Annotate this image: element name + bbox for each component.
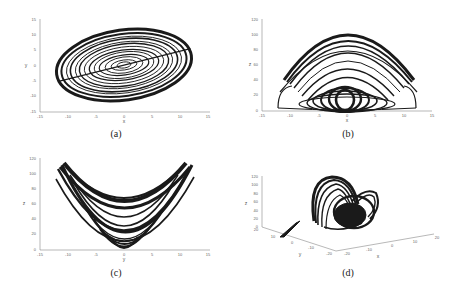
svg-text:15: 15: [430, 113, 435, 118]
caption-b: (b): [232, 128, 464, 139]
y-ticks-c: 120 100 80 60 40 20 0: [29, 156, 36, 252]
svg-text:-5: -5: [317, 113, 321, 118]
caption-c: (c): [0, 267, 232, 278]
svg-text:5: 5: [34, 47, 37, 52]
svg-text:-5: -5: [32, 78, 36, 83]
svg-text:10: 10: [402, 113, 407, 118]
svg-text:-15: -15: [37, 114, 44, 119]
svg-text:40: 40: [254, 208, 259, 213]
svg-text:120: 120: [251, 174, 258, 179]
svg-text:20: 20: [435, 235, 440, 240]
svg-text:60: 60: [32, 201, 37, 206]
svg-text:-5: -5: [94, 252, 98, 257]
svg-text:-20: -20: [326, 251, 333, 256]
svg-text:80: 80: [254, 47, 259, 52]
svg-text:100: 100: [251, 32, 258, 37]
y-ticks-a: 15 10 5 0 -5 -10 -15: [30, 17, 37, 114]
svg-text:40: 40: [254, 77, 259, 82]
x-axis-label-a: x: [123, 118, 126, 124]
plot-area-b: 120 100 80 60 40 20 0 -15 -10 -5 0 5 10 …: [232, 0, 464, 149]
svg-text:0: 0: [391, 243, 394, 248]
svg-text:120: 120: [29, 156, 36, 161]
caption-a: (a): [0, 128, 232, 139]
svg-text:-10: -10: [366, 247, 373, 252]
trace-a: [52, 21, 196, 109]
x-axis-label-d: x: [377, 253, 380, 259]
svg-text:-15: -15: [37, 252, 44, 257]
svg-text:5: 5: [151, 252, 154, 257]
svg-text:20: 20: [32, 231, 37, 236]
plot-area-a: 15 10 5 0 -5 -10 -15 -15 -10 -5 0 5 10 1…: [0, 0, 232, 149]
svg-text:-10: -10: [65, 114, 72, 119]
svg-text:-15: -15: [30, 109, 37, 114]
svg-text:-10: -10: [30, 93, 37, 98]
x-axis-label-b: x: [346, 117, 349, 123]
svg-text:40: 40: [32, 216, 37, 221]
svg-text:60: 60: [254, 199, 259, 204]
svg-text:5: 5: [374, 113, 377, 118]
trace-d: [280, 177, 378, 237]
svg-text:15: 15: [206, 252, 211, 257]
svg-text:10: 10: [178, 252, 183, 257]
svg-text:15: 15: [32, 17, 37, 22]
svg-text:20: 20: [254, 227, 259, 232]
x-ticks-d: -20 -10 0 10 20: [344, 235, 440, 256]
y-ticks-b: 120 100 80 60 40 20 0: [251, 17, 258, 113]
svg-text:-5: -5: [94, 114, 98, 119]
svg-text:-20: -20: [344, 251, 351, 256]
svg-text:-10: -10: [308, 245, 315, 250]
svg-text:0: 0: [291, 240, 294, 245]
z-axis-label-d: z: [245, 200, 248, 206]
svg-text:20: 20: [254, 92, 259, 97]
svg-text:80: 80: [254, 191, 259, 196]
y-axis-label-d: y: [299, 251, 302, 257]
subplot-d: 120 100 80 60 40 20 0 20 10 0 -10 -20 -2…: [232, 149, 464, 298]
svg-text:10: 10: [32, 32, 37, 37]
subplot-b: 120 100 80 60 40 20 0 -15 -10 -5 0 5 10 …: [232, 0, 464, 149]
y-axis-label-a: y: [25, 62, 28, 68]
svg-text:10: 10: [413, 239, 418, 244]
svg-text:15: 15: [206, 114, 211, 119]
svg-text:-10: -10: [287, 113, 294, 118]
svg-text:80: 80: [32, 186, 37, 191]
svg-text:10: 10: [178, 114, 183, 119]
svg-text:0: 0: [34, 63, 37, 68]
svg-text:-10: -10: [65, 252, 72, 257]
svg-text:20: 20: [254, 216, 259, 221]
y-axis-label-b: z: [249, 61, 252, 67]
subplot-c: 120 100 80 60 40 20 0 -15 -10 -5 0 5 10 …: [0, 149, 232, 298]
svg-text:60: 60: [254, 62, 259, 67]
subplot-a: 15 10 5 0 -5 -10 -15 -15 -10 -5 0 5 10 1…: [0, 0, 232, 149]
svg-text:5: 5: [151, 114, 154, 119]
svg-text:100: 100: [29, 171, 36, 176]
svg-text:-15: -15: [259, 113, 266, 118]
x-axis-label-c: y: [123, 256, 126, 262]
svg-text:10: 10: [271, 234, 276, 239]
z-ticks-d: 120 100 80 60 40 20 0: [251, 174, 258, 229]
y-axis-label-c: z: [23, 200, 26, 206]
y-ticks-d: 20 10 0 -10 -20: [254, 227, 333, 256]
svg-text:120: 120: [251, 17, 258, 22]
trace-b: [278, 35, 417, 112]
svg-text:100: 100: [251, 182, 258, 187]
trace-c: [56, 163, 194, 248]
caption-d: (d): [232, 267, 464, 278]
